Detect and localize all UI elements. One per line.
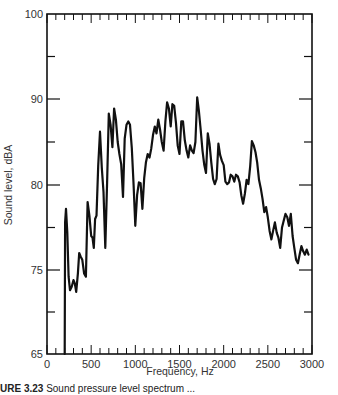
svg-text:65: 65 bbox=[31, 348, 43, 360]
svg-text:75: 75 bbox=[31, 264, 43, 276]
svg-text:90: 90 bbox=[31, 93, 43, 105]
figure-caption-text: Sound pressure level spectrum ... bbox=[46, 383, 195, 394]
figure-caption: URE 3.23 Sound pressure level spectrum .… bbox=[0, 383, 338, 394]
svg-text:80: 80 bbox=[31, 179, 43, 191]
svg-text:2000: 2000 bbox=[211, 358, 235, 370]
svg-text:3000: 3000 bbox=[300, 358, 324, 370]
x-axis-title: Frequency, Hz bbox=[146, 365, 214, 377]
y-axis-tick-labels: 65758090100 bbox=[25, 8, 43, 360]
svg-text:100: 100 bbox=[25, 8, 43, 20]
figure-caption-label: URE 3.23 bbox=[0, 383, 43, 394]
svg-text:1000: 1000 bbox=[123, 358, 147, 370]
svg-text:2500: 2500 bbox=[256, 358, 280, 370]
sound-level-series-line bbox=[65, 97, 309, 354]
svg-text:0: 0 bbox=[44, 358, 50, 370]
sound-level-chart: 050010001500200025003000 65758090100 Fre… bbox=[0, 0, 338, 395]
x-axis-ticks bbox=[47, 14, 312, 354]
y-axis-title: Sound level, dBA bbox=[2, 145, 14, 226]
svg-text:500: 500 bbox=[82, 358, 100, 370]
plot-frame bbox=[47, 14, 312, 354]
